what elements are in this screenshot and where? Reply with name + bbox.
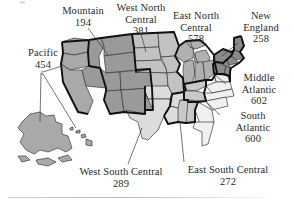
label-pacific-value: 454: [12, 59, 74, 71]
label-southatlantic-value: 600: [222, 133, 284, 145]
label-southatlantic-line2: Atlantic: [222, 122, 284, 134]
label-wsc-line1: West South Central: [62, 166, 180, 178]
label-midatlantic-value: 602: [228, 95, 290, 107]
label-enc-line1: East North: [163, 10, 229, 22]
leader-esc: [180, 122, 184, 162]
figure-root: .st { stroke:#3a3a3a; stroke-width:0.7; …: [0, 0, 294, 205]
label-east-north-central: East North Central 578: [163, 10, 229, 45]
region-hawaii: [70, 127, 92, 146]
label-enc-value: 578: [163, 33, 229, 45]
label-esc-value: 272: [168, 176, 288, 188]
label-south-atlantic: South Atlantic 600: [222, 110, 284, 145]
label-esc-line1: East South Central: [168, 164, 288, 176]
label-southatlantic-line1: South: [222, 110, 284, 122]
label-enc-line2: Central: [163, 22, 229, 34]
label-midatlantic-line1: Middle: [228, 72, 290, 84]
footer-rule: [8, 197, 266, 198]
label-west-south-central: West South Central 289: [62, 166, 180, 189]
label-middle-atlantic: Middle Atlantic 602: [228, 72, 290, 107]
label-pacific-line1: Pacific: [12, 47, 74, 59]
label-east-south-central: East South Central 272: [168, 164, 288, 187]
label-pacific: Pacific 454: [12, 47, 74, 70]
label-midatlantic-line2: Atlantic: [228, 84, 290, 96]
label-newengland-line2: England: [232, 22, 290, 34]
label-wsc-value: 289: [62, 178, 180, 190]
label-newengland-line1: New: [232, 10, 290, 22]
leader-wsc: [128, 128, 142, 164]
region-alaska: [18, 112, 72, 166]
label-newengland-value: 258: [232, 33, 290, 45]
label-new-england: New England 258: [232, 10, 290, 45]
